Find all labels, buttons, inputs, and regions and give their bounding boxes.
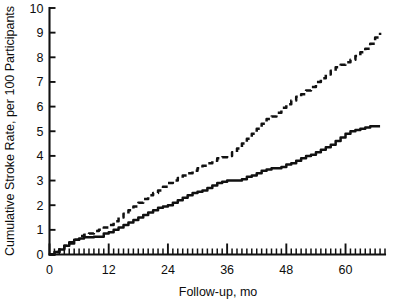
stroke-rate-line-chart: Cumulative Stroke Rate, per 100 Particip… bbox=[0, 0, 393, 301]
chart-figure: Cumulative Stroke Rate, per 100 Particip… bbox=[0, 0, 393, 301]
x-tick-label: 36 bbox=[220, 263, 234, 277]
y-tick-label: 8 bbox=[37, 51, 44, 65]
x-tick-label: 48 bbox=[279, 263, 293, 277]
y-tick-label: 9 bbox=[37, 26, 44, 40]
x-axis-title: Follow-up, mo bbox=[179, 285, 258, 299]
series-line-solid-lower bbox=[50, 126, 381, 254]
x-tick-label: 60 bbox=[339, 263, 353, 277]
x-tick-label: 0 bbox=[46, 263, 53, 277]
y-tick-label: 6 bbox=[37, 100, 44, 114]
y-tick-label: 7 bbox=[37, 75, 44, 89]
x-axis-ticks: 01224364860 bbox=[46, 244, 353, 277]
data-series-group bbox=[50, 33, 381, 255]
x-tick-label: 24 bbox=[161, 263, 175, 277]
y-axis-ticks: 012345678910 bbox=[30, 2, 56, 263]
y-tick-label: 0 bbox=[37, 248, 44, 262]
y-tick-label: 5 bbox=[37, 125, 44, 139]
y-tick-label: 2 bbox=[37, 199, 44, 213]
y-tick-label: 1 bbox=[37, 223, 44, 237]
y-tick-label: 4 bbox=[37, 149, 44, 163]
x-tick-label: 12 bbox=[102, 263, 116, 277]
y-tick-label: 10 bbox=[30, 2, 44, 16]
series-line-dashed-upper bbox=[50, 33, 381, 255]
y-tick-label: 3 bbox=[37, 174, 44, 188]
y-axis-title: Cumulative Stroke Rate, per 100 Particip… bbox=[3, 6, 17, 256]
